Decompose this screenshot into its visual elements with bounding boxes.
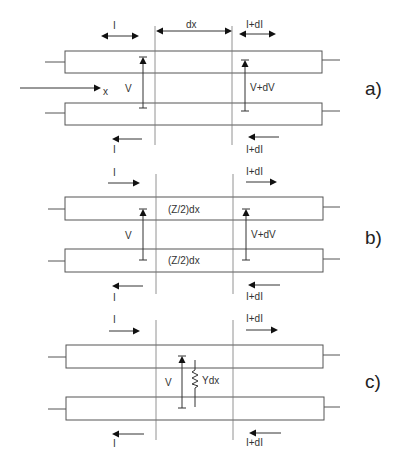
impedance-label-top: (Z/2)dx: [168, 204, 200, 215]
label-I-plus-dI-bottom: I+dI: [246, 437, 263, 448]
impedance-label-bottom: (Z/2)dx: [168, 255, 200, 266]
return-current-arrow-I-plus-dI: [248, 282, 280, 289]
label-I-plus-dI-top: I+dI: [246, 166, 263, 177]
current-arrow-I-plus-dI: [246, 179, 277, 186]
label-current-I-top: I: [113, 314, 116, 325]
label-I-plus-dI-top: I+dI: [246, 313, 263, 324]
panel-label-a: a): [365, 78, 382, 99]
label-I-plus-dI-top: I+dI: [246, 19, 263, 30]
panel-label-b: b): [365, 227, 382, 248]
label-V-plus-dV: V+dV: [251, 229, 276, 240]
label-Ydx: Ydx: [202, 375, 219, 386]
panel-b: I I+dI (Z/2)dx (Z/2)dx V V+dV: [48, 166, 382, 303]
label-dx: dx: [186, 19, 197, 30]
conductor-top: [65, 51, 322, 73]
double-arrow-I: [101, 33, 139, 40]
return-current-arrow-I: [112, 136, 142, 143]
label-current-I-bottom: I: [113, 144, 116, 155]
label-I-plus-dI-bottom: I+dI: [246, 144, 263, 155]
label-current-I-top: I: [113, 167, 116, 178]
panel-a: I dx I+dI x: [20, 19, 382, 155]
panel-label-c: c): [365, 371, 381, 392]
panel-c: I I+dI V Ydx I: [48, 313, 381, 449]
double-arrow-I-plus-dI: [239, 31, 276, 38]
diagram-svg: I dx I+dI x: [0, 0, 408, 471]
label-current-I-bottom: I: [113, 292, 116, 303]
transmission-line-diagram: I dx I+dI x: [0, 0, 408, 471]
x-axis-arrow: [20, 85, 101, 92]
conductor-bottom: [65, 103, 322, 125]
return-current-arrow-I-plus-dI: [249, 430, 281, 437]
label-V: V: [125, 230, 132, 241]
current-arrow-I-plus-dI: [246, 327, 278, 334]
return-current-arrow-I-plus-dI: [248, 134, 279, 141]
current-arrow-I: [109, 328, 140, 335]
label-V: V: [125, 83, 132, 94]
label-V-plus-dV: V+dV: [250, 82, 275, 93]
current-arrow-I: [108, 180, 140, 187]
label-I-plus-dI-bottom: I+dI: [246, 291, 263, 302]
label-current-I-top: I: [113, 20, 116, 31]
return-current-arrow-I: [112, 283, 143, 290]
return-current-arrow-I: [112, 431, 144, 438]
x-axis-label: x: [103, 86, 108, 97]
label-current-I-bottom: I: [113, 438, 116, 449]
label-V: V: [165, 377, 172, 388]
